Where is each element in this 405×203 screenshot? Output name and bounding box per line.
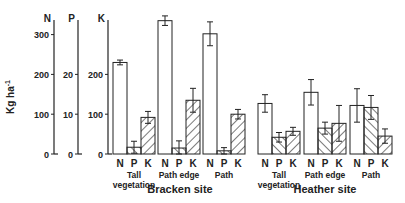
series-label: P xyxy=(221,158,228,169)
bar-group xyxy=(203,22,245,154)
site-label: Heather site xyxy=(294,183,357,195)
tick-label: 300 xyxy=(34,30,49,40)
axis-title: K xyxy=(98,13,106,24)
series-label: K xyxy=(144,158,152,169)
bars xyxy=(113,16,392,154)
group-label: Path edge xyxy=(305,170,346,180)
bar-group xyxy=(350,89,392,154)
axis-p: P01020 xyxy=(63,13,82,160)
site-label: Bracken site xyxy=(147,183,212,195)
y-axis-label: Kg ha-1 xyxy=(4,80,16,114)
series-label: N xyxy=(307,158,314,169)
tick-label: 200 xyxy=(34,70,49,80)
series-label: K xyxy=(234,158,242,169)
axis-title: P xyxy=(68,13,75,24)
series-label: P xyxy=(176,158,183,169)
tick-label: 0 xyxy=(44,150,49,160)
y-axes: Kg ha-1N0100200300P01020K0100200 xyxy=(4,13,112,160)
tick-label: 100 xyxy=(88,110,103,120)
series-label: K xyxy=(189,158,197,169)
bar-group xyxy=(113,60,155,154)
bar-group xyxy=(304,80,346,154)
tick-label: 10 xyxy=(63,110,73,120)
tick-label: 0 xyxy=(98,150,103,160)
series-label: N xyxy=(116,158,123,169)
series-label: K xyxy=(289,158,297,169)
series-label: N xyxy=(261,158,268,169)
axis-title: N xyxy=(44,13,51,24)
series-label: N xyxy=(161,158,168,169)
group-label: Path xyxy=(215,170,233,180)
group-label: Path edge xyxy=(159,170,200,180)
bar-group xyxy=(158,16,200,154)
group-label: Tall xyxy=(272,170,286,180)
axis-n: N0100200300 xyxy=(34,13,58,160)
bar-k xyxy=(231,114,245,154)
bar-group xyxy=(258,95,300,154)
nutrient-bar-chart: Kg ha-1N0100200300P01020K0100200 NPKTall… xyxy=(0,0,405,203)
series-label: P xyxy=(131,158,138,169)
series-label: P xyxy=(276,158,283,169)
tick-label: 200 xyxy=(88,70,103,80)
group-label: Path xyxy=(362,170,380,180)
series-label: P xyxy=(368,158,375,169)
series-label: P xyxy=(322,158,329,169)
series-label: N xyxy=(206,158,213,169)
axis-k: K0100200 xyxy=(88,13,112,160)
x-labels: NPKTallvegetationNPKPath edgeNPKPathBrac… xyxy=(113,158,390,195)
series-label: K xyxy=(335,158,343,169)
bar-n xyxy=(203,34,217,154)
group-label: Tall xyxy=(127,170,141,180)
bar-n xyxy=(158,21,172,154)
tick-label: 0 xyxy=(68,150,73,160)
tick-label: 20 xyxy=(63,70,73,80)
bar-n xyxy=(113,62,127,154)
series-label: K xyxy=(381,158,389,169)
series-label: N xyxy=(353,158,360,169)
tick-label: 100 xyxy=(34,110,49,120)
